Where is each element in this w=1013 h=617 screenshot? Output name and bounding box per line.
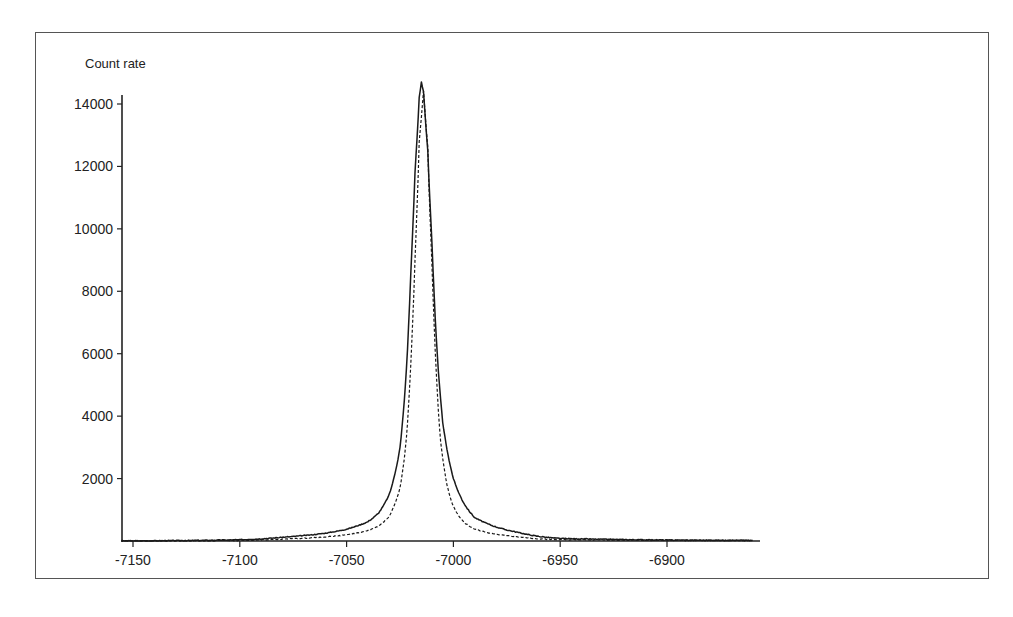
y-tick-label: 6000: [82, 346, 113, 362]
x-tick-label: -6900: [649, 552, 685, 568]
x-tick-label: -7000: [435, 552, 471, 568]
line-chart: Count rate200040006000800010000120001400…: [0, 0, 1013, 617]
y-tick-label: 14000: [74, 96, 113, 112]
y-tick-label: 8000: [82, 283, 113, 299]
x-tick-label: -7150: [115, 552, 151, 568]
x-tick-label: -6950: [542, 552, 578, 568]
series-solid-line: [122, 82, 752, 541]
y-axis-title: Count rate: [85, 56, 146, 71]
y-tick-label: 2000: [82, 471, 113, 487]
x-tick-label: -7050: [329, 552, 365, 568]
y-tick-label: 4000: [82, 408, 113, 424]
curves: [122, 82, 752, 541]
y-tick-label: 12000: [74, 158, 113, 174]
y-tick-label: 10000: [74, 221, 113, 237]
x-tick-label: -7100: [222, 552, 258, 568]
series-dashed-line: [122, 91, 752, 541]
